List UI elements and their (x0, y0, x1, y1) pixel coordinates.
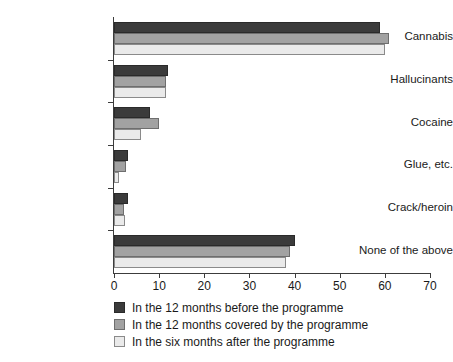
x-tick-0 (114, 274, 115, 278)
y-tick-1 (108, 60, 113, 61)
bar-2-1 (114, 118, 159, 129)
x-tick-30 (249, 274, 250, 278)
bar-5-1 (114, 246, 290, 257)
bar-0-2 (114, 44, 385, 55)
bar-5-0 (114, 235, 295, 246)
category-label-3: Glue, etc. (345, 158, 453, 170)
bar-chart: CannabisHallucinantsCocaineGlue, etc.Cra… (0, 0, 453, 362)
x-tick-label-0: 0 (94, 279, 134, 293)
x-tick-label-50: 50 (320, 279, 360, 293)
bar-5-2 (114, 257, 286, 268)
y-tick-4 (108, 188, 113, 189)
x-tick-40 (295, 274, 296, 278)
legend-swatch-before (114, 302, 125, 313)
legend-swatch-covered (114, 319, 125, 330)
x-tick-50 (340, 274, 341, 278)
legend-label-after: In the six months after the programme (132, 335, 335, 349)
category-label-5: None of the above (345, 244, 453, 256)
bar-4-2 (114, 215, 125, 226)
x-tick-label-10: 10 (139, 279, 179, 293)
x-tick-70 (430, 274, 431, 278)
legend-item-before: In the 12 months before the programme (114, 299, 368, 316)
legend-item-after: In the six months after the programme (114, 333, 368, 350)
x-tick-20 (204, 274, 205, 278)
legend-item-covered: In the 12 months covered by the programm… (114, 316, 368, 333)
bar-3-0 (114, 150, 128, 161)
y-tick-2 (108, 102, 113, 103)
bar-1-2 (114, 87, 166, 98)
legend-swatch-after (114, 336, 125, 347)
x-tick-label-60: 60 (365, 279, 405, 293)
bar-0-0 (114, 22, 380, 33)
x-tick-label-40: 40 (275, 279, 315, 293)
bar-4-0 (114, 193, 128, 204)
bar-4-1 (114, 204, 124, 215)
x-tick-label-70: 70 (410, 279, 450, 293)
legend-label-covered: In the 12 months covered by the programm… (132, 318, 368, 332)
x-tick-label-30: 30 (229, 279, 269, 293)
legend-label-before: In the 12 months before the programme (132, 301, 343, 315)
x-tick-label-20: 20 (184, 279, 224, 293)
bar-1-0 (114, 65, 168, 76)
bar-3-2 (114, 172, 119, 183)
bar-2-0 (114, 107, 150, 118)
x-tick-10 (159, 274, 160, 278)
category-label-4: Crack/heroin (345, 201, 453, 213)
bar-3-1 (114, 161, 126, 172)
bar-1-1 (114, 76, 166, 87)
bar-0-1 (114, 33, 389, 44)
chart-legend: In the 12 months before the programme In… (114, 299, 368, 350)
category-label-1: Hallucinants (345, 73, 453, 85)
y-tick-5 (108, 230, 113, 231)
category-label-2: Cocaine (345, 116, 453, 128)
bar-2-2 (114, 129, 141, 140)
x-axis-line (113, 273, 431, 274)
y-tick-3 (108, 145, 113, 146)
x-tick-60 (385, 274, 386, 278)
